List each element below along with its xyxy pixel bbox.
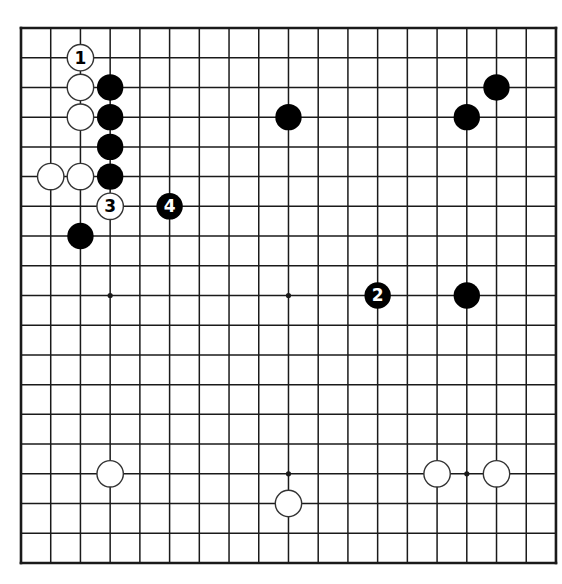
white-stone-icon [67,104,93,130]
star-point [286,293,291,298]
black-stone-icon [97,74,123,100]
black-stone [483,74,509,100]
white-stone [67,163,93,189]
white-stone-icon [67,74,93,100]
stones: 1342 [38,45,510,517]
white-stone-move-1: 1 [67,45,93,71]
go-board: 1342 [0,0,562,584]
white-stone [38,163,64,189]
black-stone-icon [67,223,93,249]
black-stone [97,74,123,100]
white-stone [424,461,450,487]
white-stone-move-3: 3 [97,193,123,219]
black-stone [454,282,480,308]
black-stone-icon [97,134,123,160]
black-stone [97,163,123,189]
black-stone-icon [97,104,123,130]
white-stone [67,74,93,100]
move-number-label: 1 [75,48,87,68]
black-stone [67,223,93,249]
black-stone-icon [275,104,301,130]
white-stone-icon [67,163,93,189]
move-number-label: 3 [104,196,116,216]
black-stone [275,104,301,130]
black-stone-icon [483,74,509,100]
black-stone [454,104,480,130]
white-stone [67,104,93,130]
black-stone-icon [97,163,123,189]
white-stone-icon [483,461,509,487]
white-stone-icon [424,461,450,487]
white-stone-icon [38,163,64,189]
star-point [464,471,469,476]
white-stone-icon [275,490,301,516]
white-stone-icon [97,461,123,487]
black-stone-move-4: 4 [156,193,182,219]
star-point [108,293,113,298]
white-stone [275,490,301,516]
white-stone [483,461,509,487]
move-number-label: 2 [372,285,384,305]
black-stone-icon [454,282,480,308]
star-point [286,471,291,476]
black-stone-icon [454,104,480,130]
white-stone [97,461,123,487]
black-stone [97,104,123,130]
black-stone [97,134,123,160]
move-number-label: 4 [164,196,176,216]
black-stone-move-2: 2 [364,282,390,308]
